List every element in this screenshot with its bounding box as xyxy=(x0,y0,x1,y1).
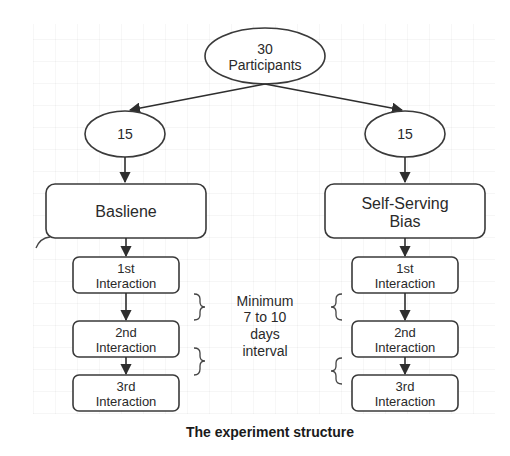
left-3rd-interaction-node: 3rd Interaction xyxy=(73,375,179,411)
left-2nd-interaction-node: 2nd Interaction xyxy=(73,321,179,357)
right-1st-label: Interaction xyxy=(375,276,436,291)
right-group-count-node: 15 xyxy=(365,111,445,157)
left-2nd-label: Interaction xyxy=(96,340,157,355)
left-group-count-node: 15 xyxy=(85,111,165,157)
self-serving-label-line2: Bias xyxy=(389,213,420,230)
baseline-condition-node: Basliene xyxy=(46,184,206,238)
experiment-diagram: 30 Participants 15 15 Basliene Self-Serv… xyxy=(0,0,510,456)
interval-line-1: Minimum xyxy=(237,293,294,309)
edge-root-left xyxy=(130,84,265,110)
left-1st-label: Interaction xyxy=(96,276,157,291)
left-3rd-ordinal: 3rd xyxy=(117,379,136,394)
edge-root-right xyxy=(265,84,402,110)
root-count: 30 xyxy=(257,41,273,57)
decorative-curve xyxy=(36,237,50,248)
diagram-caption: The experiment structure xyxy=(186,424,354,440)
right-2nd-interaction-node: 2nd Interaction xyxy=(352,321,458,357)
left-1st-interaction-node: 1st Interaction xyxy=(73,257,179,293)
interval-line-2: 7 to 10 xyxy=(244,309,287,325)
left-3rd-label: Interaction xyxy=(96,394,157,409)
right-count: 15 xyxy=(397,126,413,142)
right-2nd-ordinal: 2nd xyxy=(394,325,416,340)
right-brace-1-icon xyxy=(331,294,342,320)
left-count: 15 xyxy=(117,126,133,142)
root-node: 30 Participants xyxy=(205,28,325,84)
root-label: Participants xyxy=(228,57,301,73)
right-3rd-label: Interaction xyxy=(375,394,436,409)
right-3rd-interaction-node: 3rd Interaction xyxy=(352,375,458,411)
right-brace-2-icon xyxy=(331,358,342,384)
right-1st-interaction-node: 1st Interaction xyxy=(352,257,458,293)
left-brace-2-icon xyxy=(194,348,205,375)
interval-line-3: days xyxy=(250,326,280,342)
baseline-label: Basliene xyxy=(95,203,156,220)
interval-line-4: interval xyxy=(242,343,287,359)
self-serving-bias-condition-node: Self-Serving Bias xyxy=(325,184,485,238)
left-1st-ordinal: 1st xyxy=(117,261,135,276)
left-2nd-ordinal: 2nd xyxy=(115,325,137,340)
right-1st-ordinal: 1st xyxy=(396,261,414,276)
left-brace-1-icon xyxy=(194,294,205,320)
self-serving-label-line1: Self-Serving xyxy=(361,195,448,212)
interval-note: Minimum 7 to 10 days interval xyxy=(237,293,294,359)
right-3rd-ordinal: 3rd xyxy=(396,379,415,394)
right-2nd-label: Interaction xyxy=(375,340,436,355)
